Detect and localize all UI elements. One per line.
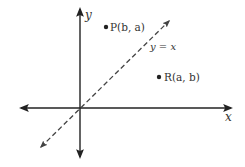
point-r-dot (157, 75, 161, 79)
coordinate-diagram: y x y = x P(b, a) R(a, b) (0, 0, 245, 167)
line-label: y = x (149, 41, 176, 52)
x-axis-label: x (225, 110, 232, 124)
point-p-label: P(b, a) (110, 21, 145, 33)
point-r-label: R(a, b) (164, 71, 200, 83)
y-axis-label: y (84, 8, 92, 22)
point-p-dot (104, 25, 108, 29)
line-y-equals-x (41, 21, 169, 147)
